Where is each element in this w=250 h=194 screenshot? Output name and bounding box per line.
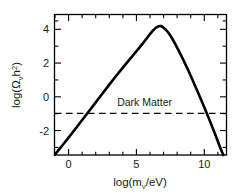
dark-matter-label: Dark Matter <box>117 96 172 108</box>
y-tick-label: 2 <box>43 57 49 69</box>
y-axis-title-pre: log( <box>10 89 22 108</box>
x-tick-label: 10 <box>198 158 210 170</box>
plot-frame <box>55 15 227 156</box>
x-axis-title: log(mν/eV) <box>113 176 167 191</box>
y-axis-title: log(Ωνh2) <box>10 62 26 108</box>
y-tick-label: 4 <box>43 23 49 35</box>
y-tick-label: 0 <box>43 91 49 103</box>
y-axis-title-group: log(Ωνh2) <box>10 62 26 108</box>
x-tick-labels: 0510 <box>66 158 211 170</box>
axis-ticks <box>55 15 226 155</box>
y-axis-title-post: ) <box>10 62 22 66</box>
relic-density-curve <box>55 26 223 155</box>
x-axis-title-post: /eV) <box>146 176 167 188</box>
neutrino-density-plot: 0510 -2024 Dark Matter log(mν/eV) log(Ων… <box>0 0 250 194</box>
x-axis-title-pre: log(m <box>113 176 142 188</box>
figure-container: 0510 -2024 Dark Matter log(mν/eV) log(Ων… <box>0 0 250 194</box>
x-tick-label: 5 <box>133 158 139 170</box>
y-tick-labels: -2024 <box>39 23 49 136</box>
x-tick-label: 0 <box>66 158 72 170</box>
y-tick-label: -2 <box>39 125 49 137</box>
